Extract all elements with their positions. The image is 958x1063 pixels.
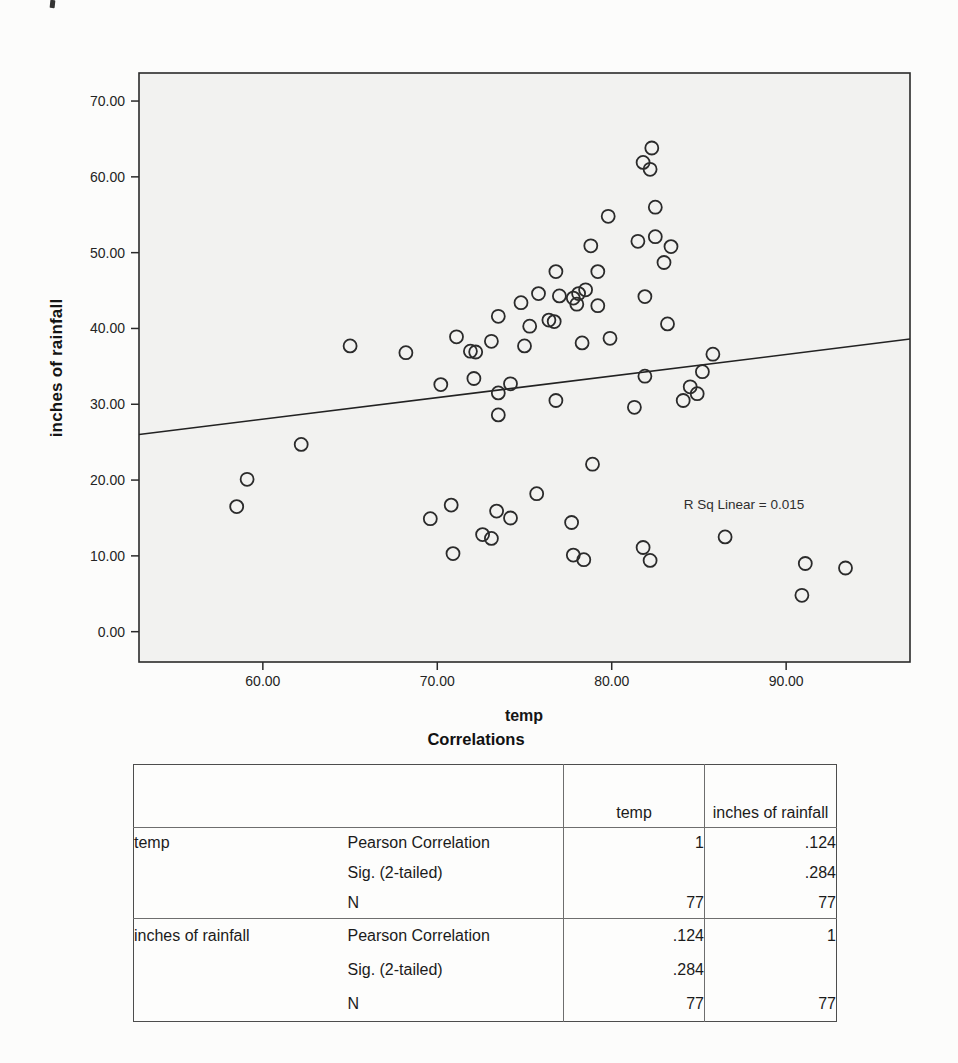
row-stat-label: Pearson Correlation xyxy=(348,828,564,859)
x-tick-label: 60.00 xyxy=(245,673,280,689)
row-group-label xyxy=(134,953,348,987)
cell-temp-value: 77 xyxy=(564,888,705,919)
table-row: inches of rainfall Pearson Correlation .… xyxy=(134,919,837,954)
header-temp: temp xyxy=(564,765,705,828)
rainfall-temp-scatter-chart: 60.0070.0080.0090.000.0010.0020.0030.004… xyxy=(0,0,958,760)
row-stat-label: N xyxy=(348,888,564,919)
cell-rainfall-value: 77 xyxy=(705,987,837,1022)
x-tick-label: 70.00 xyxy=(420,673,455,689)
row-group-label xyxy=(134,987,348,1022)
cell-rainfall-value xyxy=(705,953,837,987)
y-tick-label: 20.00 xyxy=(90,472,125,488)
y-tick-label: 70.00 xyxy=(90,93,125,109)
cell-temp-value: .124 xyxy=(564,919,705,954)
table-row: Sig. (2-tailed) .284 xyxy=(134,953,837,987)
table-row: N 77 77 xyxy=(134,888,837,919)
row-group-label: inches of rainfall xyxy=(134,919,348,954)
y-tick-label: 60.00 xyxy=(90,169,125,185)
y-tick-label: 10.00 xyxy=(90,548,125,564)
header-rainfall: inches of rainfall xyxy=(705,765,837,828)
cell-temp-value: .284 xyxy=(564,953,705,987)
rsq-linear-annotation: R Sq Linear = 0.015 xyxy=(684,497,804,512)
table-row: N 77 77 xyxy=(134,987,837,1022)
cell-rainfall-value: .124 xyxy=(705,828,837,859)
cell-rainfall-value: .284 xyxy=(705,858,837,888)
spss-output-page: { "page": { "background": "#fcfcfb" }, "… xyxy=(0,0,958,1063)
table-row: temp Pearson Correlation 1 .124 xyxy=(134,828,837,859)
cell-temp-value xyxy=(564,858,705,888)
y-tick-label: 30.00 xyxy=(90,396,125,412)
cell-rainfall-value: 1 xyxy=(705,919,837,954)
cell-rainfall-value: 77 xyxy=(705,888,837,919)
y-axis-title: inches of rainfall xyxy=(47,299,67,438)
row-group-label xyxy=(134,858,348,888)
row-group-label xyxy=(134,888,348,919)
x-axis-title: temp xyxy=(505,707,543,725)
cell-temp-value: 1 xyxy=(564,828,705,859)
row-group-label: temp xyxy=(134,828,348,859)
row-stat-label: N xyxy=(348,987,564,1022)
y-tick-label: 40.00 xyxy=(90,320,125,336)
correlations-table: temp inches of rainfall temp Pearson Cor… xyxy=(133,764,837,1022)
header-stub-cell xyxy=(134,765,564,828)
table-header-row: temp inches of rainfall xyxy=(134,765,837,828)
plot-area xyxy=(139,73,910,662)
row-stat-label: Sig. (2-tailed) xyxy=(348,953,564,987)
x-tick-label: 90.00 xyxy=(769,673,804,689)
x-tick-label: 80.00 xyxy=(594,673,629,689)
table-row: Sig. (2-tailed) .284 xyxy=(134,858,837,888)
correlations-table-title: Correlations xyxy=(427,730,524,749)
y-tick-label: 50.00 xyxy=(90,245,125,261)
cell-temp-value: 77 xyxy=(564,987,705,1022)
scatter-plot-canvas: 60.0070.0080.0090.000.0010.0020.0030.004… xyxy=(0,0,958,760)
row-stat-label: Sig. (2-tailed) xyxy=(348,858,564,888)
y-tick-label: 0.00 xyxy=(98,624,125,640)
row-stat-label: Pearson Correlation xyxy=(348,919,564,954)
